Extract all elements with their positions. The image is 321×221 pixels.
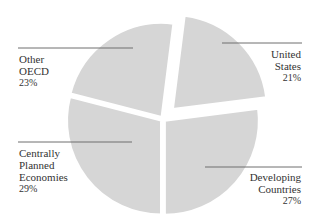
pie-slice-developing-countries bbox=[165, 109, 259, 215]
pie-slice-centrally-planned-economies bbox=[67, 97, 161, 214]
label-line: OECD bbox=[19, 65, 49, 77]
label-line: Economies bbox=[19, 171, 68, 183]
value-label: 23% bbox=[19, 77, 49, 89]
label-line: United bbox=[271, 48, 301, 60]
label-united-states: United States 21% bbox=[271, 48, 301, 84]
value-label: 29% bbox=[19, 183, 68, 195]
value-label: 21% bbox=[271, 72, 301, 84]
label-developing-countries: Developing Countries 27% bbox=[250, 171, 301, 207]
label-line: Countries bbox=[250, 183, 301, 195]
label-line: Planned bbox=[19, 159, 68, 171]
label-line: Other bbox=[19, 53, 49, 65]
label-centrally-planned: Centrally Planned Economies 29% bbox=[19, 147, 68, 195]
pie-slice-united-states bbox=[173, 16, 266, 109]
value-label: 27% bbox=[250, 195, 301, 207]
label-line: Developing bbox=[250, 171, 301, 183]
label-line: States bbox=[271, 60, 301, 72]
label-other-oecd: Other OECD 23% bbox=[19, 53, 49, 89]
label-line: Centrally bbox=[19, 147, 68, 159]
